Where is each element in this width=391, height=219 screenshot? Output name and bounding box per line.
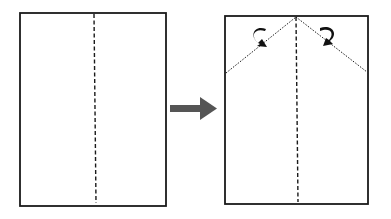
arrow-right-icon (170, 97, 217, 120)
step-2-paper (225, 16, 368, 204)
paper-outline (20, 13, 166, 206)
step-1-paper (20, 13, 166, 206)
folding-diagram (0, 0, 391, 219)
